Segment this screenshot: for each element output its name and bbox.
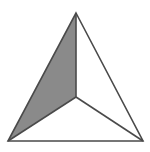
triangle-figure [0,0,150,152]
